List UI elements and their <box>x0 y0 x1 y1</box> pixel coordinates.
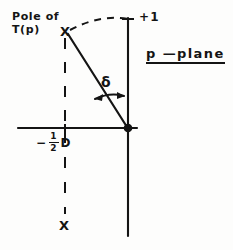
origin-point-dot <box>124 124 133 133</box>
pole-label-line2: T(p) <box>12 23 59 36</box>
delta-label: δ <box>101 74 111 90</box>
fraction-denominator: 2 <box>50 143 57 153</box>
pole-to-origin-line <box>68 34 127 127</box>
plus-one-label: +1 <box>139 10 160 24</box>
one-half-fraction: 1 2 <box>49 132 59 153</box>
minus-half-d-label: − 1 2 D <box>36 132 71 153</box>
dashed-arc-to-plus-one <box>70 18 129 30</box>
d-suffix: D <box>61 136 72 150</box>
lower-marker-x: X <box>59 218 70 233</box>
pole-label: Pole of T(p) <box>12 10 59 36</box>
fraction-numerator: 1 <box>49 132 59 143</box>
p-plane-label: p —plane <box>146 46 225 64</box>
pole-marker-x: X <box>60 24 71 39</box>
pole-label-line1: Pole of <box>12 10 59 23</box>
minus-sign: − <box>36 136 47 150</box>
p-plane-diagram <box>0 0 233 250</box>
